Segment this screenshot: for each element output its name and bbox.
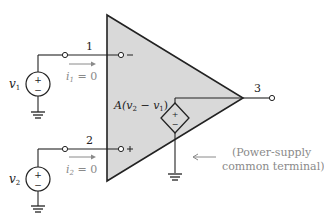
dependent-minus-sign: − xyxy=(172,120,179,129)
node-3-label: 3 xyxy=(254,82,261,95)
v1-plus-sign: + xyxy=(34,75,42,85)
v2-minus-sign: − xyxy=(34,180,42,190)
terminal-1-inner xyxy=(118,52,123,57)
v2-plus-sign: + xyxy=(34,170,42,180)
v1-minus-sign: − xyxy=(34,85,42,95)
annotation-line-1: (Power-supply xyxy=(232,146,312,159)
node-1-label: 1 xyxy=(86,40,93,53)
v2-label: v2 xyxy=(9,172,20,187)
terminal-2-outer xyxy=(62,146,67,151)
node-2-label: 2 xyxy=(86,134,93,147)
ground-icon-v1 xyxy=(31,112,45,118)
current-arrow-i2 xyxy=(69,155,96,160)
op-amp-circuit-diagram: 1 i1 = 0 + − v1 2 i2 = 0 + − v2 xyxy=(0,0,324,224)
terminal-3 xyxy=(269,95,274,100)
annotation-line-2: common terminal) xyxy=(222,160,324,173)
annotation-arrow xyxy=(193,154,216,160)
ground-icon-common xyxy=(168,174,182,180)
ground-icon-v2 xyxy=(31,206,45,212)
current-i2-label: i2 = 0 xyxy=(66,163,97,177)
terminal-1-outer xyxy=(62,52,67,57)
dependent-plus-sign: + xyxy=(172,110,179,119)
v1-label: v1 xyxy=(9,77,20,92)
current-arrow-i1 xyxy=(69,62,96,67)
current-i1-label: i1 = 0 xyxy=(66,70,97,84)
terminal-2-inner xyxy=(118,146,123,151)
